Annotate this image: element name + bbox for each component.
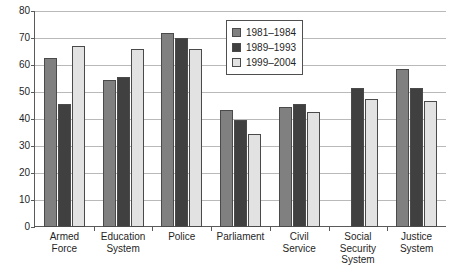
x-axis-label-justice-system: JusticeSystem bbox=[387, 231, 446, 254]
bar-chart: 01020304050607080 ArmedForceEducationSys… bbox=[0, 0, 450, 277]
x-axis-label-line: Education bbox=[94, 231, 153, 243]
legend-swatch-icon bbox=[232, 43, 241, 52]
legend-item-label: 1981–1984 bbox=[246, 28, 296, 38]
bar-group-police bbox=[152, 11, 211, 227]
x-axis-label-line: Service bbox=[270, 243, 329, 255]
legend-item: 1999–2004 bbox=[232, 55, 297, 70]
legend-items: 1981–19841989–19931999–2004 bbox=[232, 25, 297, 70]
bar bbox=[351, 88, 364, 227]
bar bbox=[307, 112, 320, 227]
bar bbox=[365, 99, 378, 227]
x-axis-label-line: Security bbox=[329, 243, 388, 255]
x-axis-label-line: Police bbox=[152, 231, 211, 243]
x-axis-label-line: Force bbox=[35, 243, 94, 255]
legend: 1981–19841989–19931999–2004 bbox=[226, 20, 303, 75]
bar bbox=[58, 104, 71, 227]
x-axis-label-line: Parliament bbox=[211, 231, 270, 243]
x-axis-label-civil-service: CivilService bbox=[270, 231, 329, 254]
bar-group-social-security-system bbox=[329, 11, 388, 227]
x-axis-label-line: System bbox=[387, 243, 446, 255]
bar bbox=[248, 134, 261, 227]
y-axis-label-70: 70 bbox=[4, 33, 30, 43]
y-axis-labels: 01020304050607080 bbox=[0, 11, 30, 227]
x-axis-label-parliament: Parliament bbox=[211, 231, 270, 243]
bar bbox=[424, 101, 437, 227]
legend-item-label: 1989–1993 bbox=[246, 43, 296, 53]
bar bbox=[161, 33, 174, 227]
x-axis-label-line: System bbox=[94, 243, 153, 255]
x-axis-label-armed-force: ArmedForce bbox=[35, 231, 94, 254]
bar bbox=[44, 58, 57, 227]
x-axis-label-line: Justice bbox=[387, 231, 446, 243]
x-axis-label-social-security-system: SocialSecuritySystem bbox=[329, 231, 388, 266]
bar bbox=[131, 49, 144, 227]
bar bbox=[396, 69, 409, 227]
y-axis-label-50: 50 bbox=[4, 87, 30, 97]
legend-item: 1981–1984 bbox=[232, 25, 297, 40]
bar-group-education-system bbox=[94, 11, 153, 227]
y-axis-label-60: 60 bbox=[4, 60, 30, 70]
x-axis-label-line: Civil bbox=[270, 231, 329, 243]
legend-swatch-icon bbox=[232, 58, 241, 67]
x-axis-label-line: Armed bbox=[35, 231, 94, 243]
x-axis-labels: ArmedForceEducationSystemPoliceParliamen… bbox=[35, 231, 446, 277]
x-axis-label-education-system: EducationSystem bbox=[94, 231, 153, 254]
x-axis-label-line: Social bbox=[329, 231, 388, 243]
y-axis-label-80: 80 bbox=[4, 6, 30, 16]
x-axis-label-line: System bbox=[329, 254, 388, 266]
bar bbox=[293, 104, 306, 227]
bar bbox=[175, 38, 188, 227]
bar-group-justice-system bbox=[387, 11, 446, 227]
bar bbox=[189, 49, 202, 227]
legend-item-label: 1999–2004 bbox=[246, 58, 296, 68]
bar bbox=[220, 110, 233, 227]
y-axis-label-40: 40 bbox=[4, 114, 30, 124]
bar bbox=[72, 46, 85, 227]
bar bbox=[279, 107, 292, 227]
bar bbox=[117, 77, 130, 227]
legend-swatch-icon bbox=[232, 28, 241, 37]
bar bbox=[410, 88, 423, 227]
y-axis-label-30: 30 bbox=[4, 141, 30, 151]
y-axis-label-10: 10 bbox=[4, 195, 30, 205]
bar bbox=[103, 80, 116, 227]
bar-group-armed-force bbox=[35, 11, 94, 227]
cropped-title-sliver bbox=[100, 0, 280, 5]
legend-item: 1989–1993 bbox=[232, 40, 297, 55]
y-axis-label-0: 0 bbox=[4, 222, 30, 232]
y-axis-label-20: 20 bbox=[4, 168, 30, 178]
bar bbox=[234, 120, 247, 227]
x-axis-label-police: Police bbox=[152, 231, 211, 243]
